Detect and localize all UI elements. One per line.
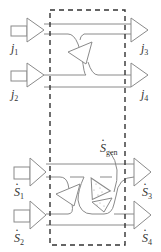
label-s1: S1 bbox=[14, 186, 24, 201]
sgen-leader-line bbox=[110, 152, 117, 192]
label-sgen: Sgen bbox=[100, 142, 118, 157]
label-j4: j4 bbox=[141, 88, 148, 103]
arrow-j3-icon bbox=[131, 18, 148, 42]
diagram-canvas bbox=[0, 0, 161, 252]
label-s3: S3 bbox=[142, 186, 152, 201]
entropy-transfer-triangle-icon bbox=[56, 184, 80, 206]
label-s4: S4 bbox=[142, 232, 152, 247]
label-j2: j2 bbox=[11, 88, 18, 103]
label-j3: j3 bbox=[141, 42, 148, 57]
label-j1: j1 bbox=[11, 42, 18, 57]
arrow-j1-icon bbox=[11, 18, 44, 42]
arrow-j2-icon bbox=[11, 63, 44, 87]
arrow-j4-icon bbox=[131, 63, 148, 87]
transfer-triangle-icon bbox=[68, 42, 92, 64]
label-s2: S2 bbox=[14, 232, 24, 247]
entropy-generation-icon bbox=[84, 173, 112, 212]
